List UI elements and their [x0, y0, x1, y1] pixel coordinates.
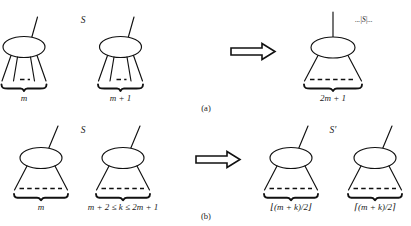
panel-b-middle-tree [96, 126, 150, 200]
panel-b-left-tree-label: m [38, 203, 45, 212]
panel-b-left-tree [14, 126, 68, 200]
panel-b-result-left-tree-label: ⌊(m + k)/2⌋ [270, 203, 311, 212]
panel-a-left-tree-label: m [21, 94, 28, 103]
panel-a-left-tree [2, 17, 47, 91]
panel-a-middle-tree [98, 17, 143, 91]
panel-a-caption: (a) [201, 104, 210, 113]
panel-b-caption: (b) [201, 212, 211, 221]
panel-a-arrow-icon [231, 44, 275, 60]
panel-b-arrow-icon [196, 152, 240, 168]
panel-a-middle-tree-label: m + 1 [110, 94, 132, 103]
panel-b-result-right-tree-label: ⌈(m + k)/2⌉ [354, 203, 395, 212]
panel-a-cardinality-annotation: ...|S|... [355, 16, 372, 24]
panel-b-result-set-label: S′ [330, 126, 337, 136]
panel-a-result-tree-label: 2m + 1 [320, 94, 346, 103]
panel-a-result-tree [304, 12, 362, 91]
panel-a-set-label: S [81, 16, 86, 26]
panel-b-set-label: S [81, 126, 86, 136]
panel-b-result-left-tree [264, 126, 318, 200]
diagram-vector-layer: .st { fill: none; stroke: #111111; strok… [0, 0, 411, 226]
panel-b-middle-tree-label: m + 2 ≤ k ≤ 2m + 1 [88, 203, 159, 212]
panel-b-result-right-tree [348, 126, 402, 200]
figure-canvas: .st { fill: none; stroke: #111111; strok… [0, 0, 411, 226]
